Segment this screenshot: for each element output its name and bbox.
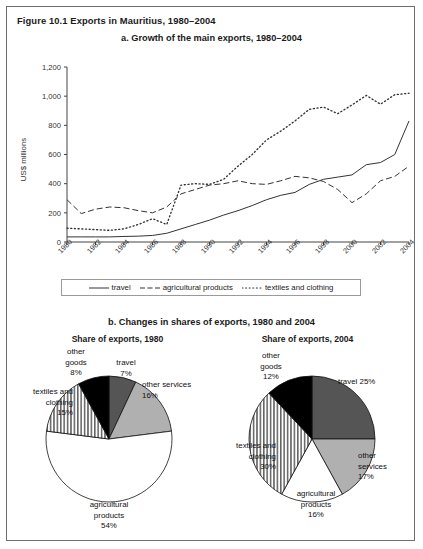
- pie-left-heading: Share of exports, 1980: [35, 334, 200, 344]
- svg-text:800: 800: [48, 121, 61, 130]
- pie-1980-label-textiles: textiles and clothing 15%: [7, 387, 73, 419]
- svg-text:1,200: 1,200: [42, 63, 61, 72]
- series-agricultural-products: [67, 166, 409, 213]
- figure-container: Figure 10.1 Exports in Mauritius, 1980–2…: [6, 6, 415, 541]
- line-chart-panel: US$ millions 1,2001,0008006004002000 198…: [7, 47, 416, 305]
- data-series-group: [67, 93, 409, 237]
- pie-2004-label-textiles: textiles and clothing 30%: [206, 441, 276, 473]
- pie-slice-agricultural-products: [46, 431, 172, 502]
- pie-1980-label-other-goods: other goods 8%: [49, 347, 103, 379]
- figure-title: Figure 10.1 Exports in Mauritius, 1980–2…: [17, 15, 216, 26]
- pie-1980-label-agricultural: agricultural products 54%: [64, 500, 154, 532]
- svg-text:200: 200: [48, 209, 61, 218]
- dotted-line-icon: [242, 285, 262, 291]
- pie-2004-slices: [249, 376, 375, 502]
- legend-item-agricultural: agricultural products: [140, 283, 233, 292]
- pie-chart-1980: other goods 8% travel 7% other services …: [9, 347, 212, 542]
- pie-2004-label-other-services: other services 17%: [358, 451, 412, 483]
- y-axis-ticks: 1,2001,0008006004002000: [42, 63, 67, 247]
- pie-2004-label-other-goods: other goods 12%: [244, 351, 298, 383]
- svg-text:400: 400: [48, 179, 61, 188]
- series-travel: [67, 121, 409, 237]
- series-textiles-and-clothing: [67, 93, 409, 230]
- solid-line-icon: [89, 285, 109, 291]
- pie-chart-2004: other goods 12% travel 25% other service…: [212, 347, 415, 542]
- panel-a-title: a. Growth of the main exports, 1980–2004: [7, 33, 416, 43]
- pie-1980-label-travel: travel 7%: [105, 358, 147, 379]
- pie-right-heading: Share of exports, 2004: [225, 334, 390, 344]
- svg-text:600: 600: [48, 150, 61, 159]
- legend-item-travel: travel: [89, 283, 131, 292]
- pie-1980-label-other-services: other services 16%: [142, 380, 214, 401]
- pie-2004-label-travel: travel 25%: [338, 377, 410, 388]
- svg-text:1,000: 1,000: [42, 92, 61, 101]
- legend-label-agricultural: agricultural products: [163, 283, 233, 292]
- legend-item-textiles: textiles and clothing: [242, 283, 333, 292]
- panel-b-title: b. Changes in shares of exports, 1980 an…: [7, 317, 416, 327]
- legend-label-travel: travel: [112, 283, 131, 292]
- dashed-line-icon: [140, 285, 160, 291]
- legend-label-textiles: textiles and clothing: [265, 283, 333, 292]
- pie-2004-label-agricultural: agricultural products 16%: [274, 489, 358, 521]
- chart-legend: travel agricultural products textiles an…: [61, 279, 361, 296]
- line-chart-svg: 1,2001,0008006004002000: [7, 47, 416, 305]
